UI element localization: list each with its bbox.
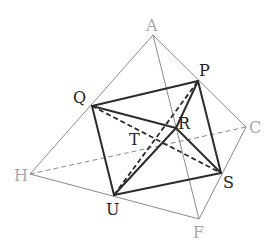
label-C: C [249, 118, 261, 137]
edge-A-C [153, 35, 246, 127]
edge-Q-S-dashed [92, 106, 221, 173]
label-P: P [199, 61, 210, 80]
label-R: R [178, 114, 191, 133]
label-T: T [129, 130, 140, 149]
edge-A-H [30, 35, 153, 174]
label-Q: Q [73, 88, 86, 107]
label-A: A [145, 16, 158, 35]
label-U: U [106, 200, 119, 219]
label-S: S [223, 173, 234, 192]
label-H: H [14, 166, 28, 185]
label-F: F [193, 223, 204, 242]
outer-solid-edges [30, 35, 246, 219]
geometry-diagram: A P C Q H S U F R T [0, 0, 271, 248]
edge-U-Q [92, 106, 114, 195]
edge-P-S [198, 81, 221, 173]
edge-Q-R [92, 106, 176, 128]
edge-R-S [176, 128, 221, 173]
inner-solid-edges [92, 81, 221, 195]
